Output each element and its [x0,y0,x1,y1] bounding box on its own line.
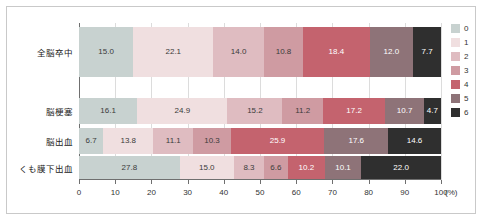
bar-segment-value: 10.7 [397,107,413,115]
category-label: 脳梗塞 [46,105,73,117]
bar-row: 脳出血6.713.811.110.325.917.614.6 [79,128,441,154]
bar-segment-value: 10.2 [299,164,315,172]
chart-frame: 0102030405060708090100 (%) 全脳卒中15.022.11… [6,6,476,214]
bar-segment: 14.0 [213,27,264,77]
bar-segment: 4.7 [424,98,441,124]
bar-segment-value: 13.8 [120,137,136,145]
bar-segment: 15.0 [180,156,234,179]
x-tick [441,180,442,184]
bar-segment: 11.2 [282,98,323,124]
legend-item[interactable]: 6 [451,107,468,118]
x-tick-label: 20 [147,188,156,197]
legend-swatch [451,108,460,117]
bar-segment-value: 10.1 [335,164,351,172]
bar-segment-value: 6.6 [270,164,281,172]
bar-segment-value: 6.7 [86,137,97,145]
bar-segment: 6.6 [264,156,288,179]
bar-segment-value: 22.0 [393,164,409,172]
bar-segment: 7.7 [413,27,441,77]
x-tick [151,180,152,184]
bar-segment: 22.1 [133,27,213,77]
bar-segment: 13.8 [103,128,153,154]
bar-segment-value: 8.3 [243,164,254,172]
bar-segment: 8.3 [234,156,264,179]
bar-segment: 16.1 [79,98,137,124]
legend-item[interactable]: 0 [451,23,468,34]
bar-segment: 15.0 [79,27,133,77]
x-tick [224,180,225,184]
bar-segment-value: 7.7 [421,48,432,56]
bar-segment: 14.6 [388,128,441,154]
x-tick [115,180,116,184]
x-tick [188,180,189,184]
legend-item[interactable]: 5 [451,93,468,104]
bar-segment-value: 22.1 [166,48,182,56]
bar-segment: 12.0 [370,27,413,77]
x-tick-label: 50 [256,188,265,197]
legend-swatch [451,94,460,103]
legend-swatch [451,80,460,89]
bar-segment: 17.6 [324,128,388,154]
legend-swatch [451,66,460,75]
x-tick-label: 10 [111,188,120,197]
x-axis-unit-label: (%) [445,188,457,197]
x-tick [296,180,297,184]
legend-label: 2 [464,53,468,61]
x-tick-label: 90 [400,188,409,197]
bar-segment: 18.4 [303,27,370,77]
bar-segment: 10.3 [193,128,230,154]
bar-segment-value: 18.4 [329,48,345,56]
bar-segment: 10.1 [325,156,362,179]
bar-segment-value: 25.9 [270,137,286,145]
bar-segment: 24.9 [137,98,227,124]
legend-label: 1 [464,39,468,47]
bar-segment-value: 24.9 [175,107,191,115]
legend-item[interactable]: 1 [451,37,468,48]
legend-item[interactable]: 4 [451,79,468,90]
bar-segment: 11.1 [153,128,193,154]
x-tick [260,180,261,184]
category-label: 脳出血 [46,135,73,147]
category-label: 全脳卒中 [37,46,73,58]
bar-row: 全脳卒中15.022.114.010.818.412.07.7 [79,27,441,77]
x-tick-label: 0 [77,188,81,197]
x-tick-label: 70 [328,188,337,197]
legend-item[interactable]: 2 [451,51,468,62]
bar-segment: 10.2 [288,156,325,179]
x-tick [332,180,333,184]
legend-swatch [451,52,460,61]
bar-segment-value: 15.0 [199,164,215,172]
x-tick-label: 60 [292,188,301,197]
legend: 0123456 [451,23,468,118]
x-tick-label: 40 [219,188,228,197]
bar-segment-value: 14.0 [231,48,247,56]
x-tick-label: 80 [364,188,373,197]
bar-segment-value: 15.0 [98,48,114,56]
bar-segment: 10.8 [264,27,303,77]
bar-segment-value: 17.6 [348,137,364,145]
bar-segment: 25.9 [231,128,325,154]
bar-segment: 27.8 [79,156,180,179]
x-tick-label: 30 [183,188,192,197]
bar-segment-value: 10.3 [204,137,220,145]
gridline [441,23,442,180]
bar-row: 脳梗塞16.124.915.211.217.210.74.7 [79,98,441,124]
category-label: くも膜下出血 [19,162,73,174]
bar-segment: 6.7 [79,128,103,154]
x-tick [405,180,406,184]
legend-swatch [451,24,460,33]
bar-segment-value: 15.2 [247,107,263,115]
legend-label: 6 [464,109,468,117]
legend-label: 0 [464,25,468,33]
legend-item[interactable]: 3 [451,65,468,76]
bar-segment: 22.0 [361,156,441,179]
bar-segment-value: 12.0 [384,48,400,56]
bar-segment-value: 16.1 [100,107,116,115]
x-tick [79,180,80,184]
bar-segment-value: 11.1 [166,137,181,145]
x-tick [369,180,370,184]
bar-segment-value: 14.6 [407,137,423,145]
bar-segment: 17.2 [323,98,385,124]
bar-segment-value: 10.8 [276,48,292,56]
legend-label: 3 [464,67,468,75]
